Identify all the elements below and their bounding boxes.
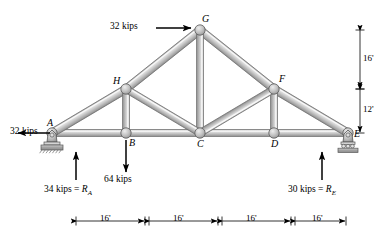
vertical-GC [197, 30, 204, 133]
dim-bay-BC-label: 16' [173, 214, 184, 223]
dim-bay-CD-label: 16' [246, 214, 257, 223]
joint-H [121, 84, 131, 94]
top-chord-AH [50, 86, 128, 137]
joint-label-F: F [279, 74, 285, 84]
vertical-FD [271, 89, 278, 133]
joint-D [269, 128, 279, 138]
joint-label-G: G [202, 14, 209, 24]
reaction-A-label: 34 kips = RA [44, 185, 92, 197]
dim-bay-AB-label: 16' [100, 214, 111, 223]
diagonal-HC [124, 86, 202, 136]
joint-label-B: B [129, 138, 135, 148]
diagonal-FC [198, 86, 276, 136]
joint-G [195, 25, 205, 35]
dim-vertical-upper-label: 16' [363, 54, 374, 63]
joint-label-H: H [113, 76, 120, 86]
load-at-B-label: 64 kips [104, 175, 132, 185]
dim-bay-DE-label: 16' [312, 214, 323, 223]
vertical-HB [123, 89, 130, 133]
reaction-E-label: 30 kips = RE [288, 185, 336, 197]
truss-canvas [0, 0, 375, 242]
top-chord-FE [272, 86, 350, 137]
truss-diagram: ABCDEFGH32 kips32 kips64 kips34 kips = R… [0, 0, 375, 242]
truss-members [50, 27, 350, 137]
joint-label-E: E [354, 129, 360, 139]
load-at-G-label: 32 kips [110, 22, 138, 32]
joint-label-C: C [197, 139, 204, 149]
dim-vertical-lower-label: 12' [363, 105, 374, 114]
load-at-A-label: 32 kips [10, 127, 38, 137]
top-chord-HG [124, 27, 203, 92]
joint-label-D: D [271, 139, 278, 149]
joint-F [269, 84, 279, 94]
joint-label-A: A [47, 118, 53, 128]
joint-C [195, 128, 205, 138]
top-chord-GF [198, 27, 277, 92]
